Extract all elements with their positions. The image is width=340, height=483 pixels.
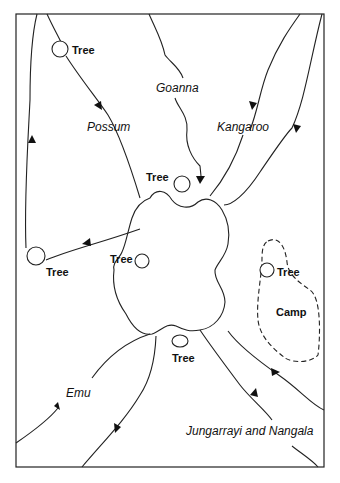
tree-icon xyxy=(260,263,274,277)
tree-icon xyxy=(27,247,45,265)
tree-icon xyxy=(52,41,68,57)
jungarrayi-inbound-arrow-icon xyxy=(250,388,258,397)
camp-boundary xyxy=(258,240,320,362)
tree-label: Tree xyxy=(110,253,133,265)
camp-label: Camp xyxy=(276,306,307,318)
tree-label: Tree xyxy=(146,171,169,183)
kangaroo-outbound-arrow-icon xyxy=(293,124,301,133)
goanna-arrow-icon xyxy=(196,176,205,184)
jungarrayi-inbound-track xyxy=(200,330,318,467)
goanna-track xyxy=(149,14,201,176)
emu-label: Emu xyxy=(66,386,91,400)
goanna-label: Goanna xyxy=(156,81,199,95)
left-loop-track xyxy=(25,14,37,248)
kangaroo-label: Kangaroo xyxy=(217,120,269,134)
tree-label: Tree xyxy=(172,352,195,364)
kangaroo-inbound-arrow-icon xyxy=(249,101,257,110)
possum-arrow-icon xyxy=(94,101,102,110)
emu-inbound-track xyxy=(82,336,156,467)
tree-icon xyxy=(174,176,190,192)
tree-icon xyxy=(135,254,149,268)
left-loop-arrow-icon xyxy=(28,135,36,143)
figure-caption-partial xyxy=(0,474,340,483)
map-diagram: Tree Tree Tree Tree Tree Tree Goanna Pos… xyxy=(0,0,340,483)
tree-label: Tree xyxy=(277,266,300,278)
emu-inbound-arrow-icon xyxy=(114,423,121,433)
possum-label: Possum xyxy=(87,120,130,134)
tree-label: Tree xyxy=(46,266,69,278)
tree-icon xyxy=(172,335,188,347)
jungarrayi-label: Jungarrayi and Nangala xyxy=(185,424,314,438)
left-tree-arrow-icon xyxy=(82,238,91,246)
tree-label: Tree xyxy=(72,44,95,56)
kangaroo-outbound-track xyxy=(224,14,322,205)
